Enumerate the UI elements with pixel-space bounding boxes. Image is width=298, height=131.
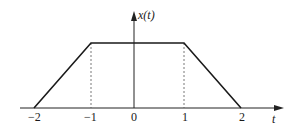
tick-minus-1: −1 xyxy=(84,110,97,124)
tick-0: 0 xyxy=(131,110,137,124)
signal-curve xyxy=(34,43,241,108)
tick-1: 1 xyxy=(182,110,188,124)
y-axis-arrow-icon xyxy=(131,11,137,21)
tick-2: 2 xyxy=(239,110,245,124)
x-axis-label: t xyxy=(272,112,276,126)
x-axis-arrow-icon xyxy=(274,105,284,111)
y-axis-label: x(t) xyxy=(137,8,155,22)
trapezoid-plot: x(t) t −2 −1 0 1 2 xyxy=(0,0,298,131)
tick-minus-2: −2 xyxy=(28,110,41,124)
